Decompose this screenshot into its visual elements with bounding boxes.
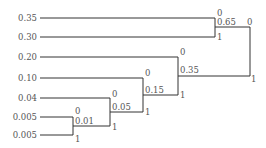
- leaf-label: 0.20: [18, 52, 37, 62]
- bit-label: 1: [217, 32, 222, 42]
- bit-label: 0: [247, 17, 252, 27]
- bit-label: 1: [75, 134, 80, 144]
- sum-label: 0.15: [145, 85, 164, 95]
- bit-label: 1: [180, 90, 185, 100]
- leaf-label: 0.10: [18, 73, 37, 83]
- bit-label: 1: [112, 122, 117, 132]
- huffman-tree-diagram: 0.35 0.30 0.20 0.10 0.04 0.005 0.005 0 0…: [0, 0, 266, 148]
- leaf-label: 0.30: [18, 32, 37, 42]
- sum-label: 0.05: [112, 102, 131, 112]
- bit-label: 0: [180, 47, 185, 57]
- bit-label: 0: [75, 106, 80, 116]
- leaf-label: 0.35: [18, 13, 37, 23]
- bit-label: 0: [145, 68, 150, 78]
- bit-label: 1: [251, 74, 256, 84]
- leaf-label: 0.04: [18, 93, 37, 103]
- sum-label: 0.65: [217, 17, 236, 27]
- sum-label: 0.35: [180, 65, 199, 75]
- sum-label: 0.01: [75, 116, 94, 126]
- bit-label: 1: [145, 107, 150, 117]
- tree-canvas: 0.35 0.30 0.20 0.10 0.04 0.005 0.005 0 0…: [0, 0, 266, 148]
- leaf-label: 0.005: [13, 130, 37, 140]
- leaf-label: 0.005: [13, 112, 37, 122]
- bit-label: 0: [112, 89, 117, 99]
